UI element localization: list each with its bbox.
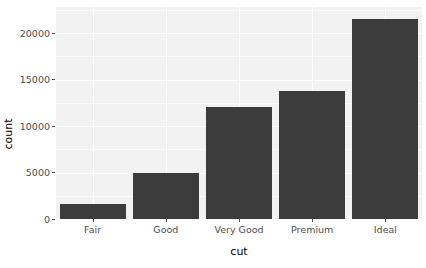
bar-very-good (206, 107, 272, 219)
y-tick-mark (52, 33, 55, 34)
y-tick-mark (52, 172, 55, 173)
x-tick-label: Ideal (374, 224, 397, 235)
bar-fair (60, 204, 126, 219)
y-tick-mark (52, 219, 55, 220)
x-tick-label: Fair (84, 224, 101, 235)
bar-chart: count 05000100001500020000 FairGoodVery … (0, 0, 426, 268)
x-tick-mark (312, 219, 313, 222)
y-tick-mark (52, 79, 55, 80)
y-tick-label: 10000 (20, 120, 50, 132)
x-tick-mark (239, 219, 240, 222)
x-tick-mark (166, 219, 167, 222)
x-tick-label: Very Good (214, 224, 263, 235)
x-tick-mark (93, 219, 94, 222)
bar-ideal (352, 19, 418, 219)
bar-good (133, 173, 199, 219)
gridline-major-vertical (93, 7, 94, 219)
x-axis-title: cut (56, 245, 422, 258)
plot-panel (56, 7, 422, 219)
x-tick-label: Good (153, 224, 178, 235)
y-tick-label: 5000 (26, 167, 50, 179)
bar-premium (279, 91, 345, 219)
x-axis: FairGoodVery GoodPremiumIdeal (56, 219, 422, 239)
y-tick-label: 0 (44, 213, 50, 225)
x-tick-mark (385, 219, 386, 222)
y-axis: 05000100001500020000 (0, 0, 55, 268)
y-tick-mark (52, 126, 55, 127)
y-tick-label: 15000 (20, 74, 50, 86)
x-tick-label: Premium (291, 224, 333, 235)
y-tick-label: 20000 (20, 27, 50, 39)
